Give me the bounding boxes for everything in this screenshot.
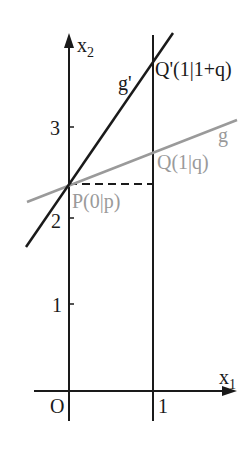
y-tick-3-label: 3: [50, 117, 60, 139]
q-label: Q(1|q): [157, 151, 209, 174]
line-g-prime: [26, 33, 173, 247]
y-tick-1-label: 1: [52, 294, 62, 316]
y-tick-2-label: 2: [51, 210, 61, 232]
g-label: g: [218, 124, 228, 147]
g-prime-label: g': [118, 72, 132, 95]
x2-axis-label: x2: [77, 34, 94, 60]
q-prime-label: Q'(1|1+q): [155, 58, 232, 81]
origin-label: O: [50, 395, 64, 417]
x-tick-1-label: 1: [158, 395, 168, 417]
p-label: P(0|p): [72, 190, 120, 213]
x2-axis-arrow-icon: [64, 33, 74, 48]
coordinate-diagram: x2 x1 O 1 3 2 1 g' g Q'(1|1+q) Q(1|q) P(…: [0, 0, 252, 455]
